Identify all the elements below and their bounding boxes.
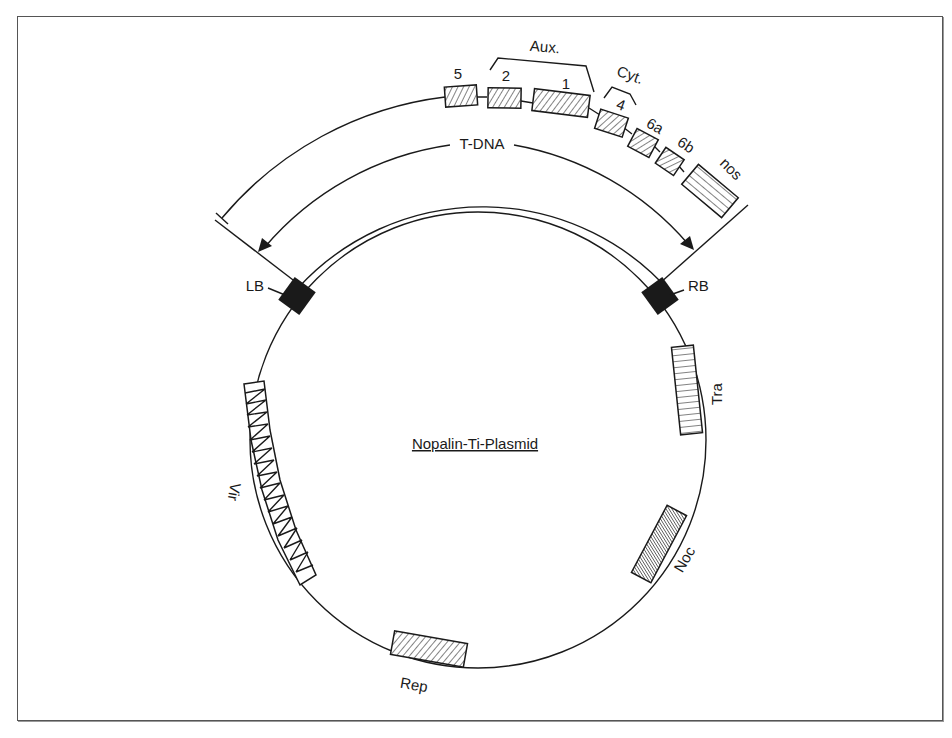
region-vir: Vir	[225, 381, 316, 585]
svg-text:Vir: Vir	[225, 482, 245, 503]
svg-text:1: 1	[562, 75, 570, 92]
svg-text:2: 2	[502, 67, 510, 84]
tdna-ring-arc	[298, 207, 672, 294]
tdna-gene-6a: 6a	[628, 114, 668, 157]
svg-text:nos: nos	[717, 154, 746, 183]
plasmid-title: Nopalin-Ti-Plasmid	[412, 435, 538, 452]
gene-arc	[222, 97, 445, 218]
tdna-gene-6b: 6b	[655, 133, 698, 176]
svg-text:Aux.: Aux.	[529, 37, 560, 57]
svg-text:5: 5	[454, 65, 462, 82]
svg-text:6b: 6b	[675, 133, 698, 156]
rb-radial-line	[660, 205, 748, 283]
tdna-gene-2: 2	[488, 67, 521, 108]
left-border-lb: LB	[246, 277, 316, 315]
tdna-gene-4: 4	[595, 95, 629, 137]
svg-text:Tra: Tra	[708, 382, 725, 405]
tdna-gene-1: 1	[532, 75, 590, 117]
right-border-rb: RB	[641, 277, 709, 315]
tdna-gene-nos: nos	[682, 154, 746, 218]
lb-radial-line	[215, 220, 297, 283]
svg-text:Rep: Rep	[399, 674, 429, 696]
svg-text:RB: RB	[688, 277, 709, 294]
svg-text:4: 4	[614, 95, 628, 114]
tdna-gene-5: 5	[444, 65, 477, 107]
ti-plasmid-diagram: T-DNA 5 2 1 4 6a 6b nos	[0, 0, 952, 738]
region-tra: Tra	[671, 345, 725, 435]
svg-text:Cyt.: Cyt.	[615, 62, 646, 87]
tdna-span-arrow: T-DNA	[258, 135, 694, 252]
tdna-label: T-DNA	[460, 135, 505, 152]
svg-text:Noc: Noc	[670, 543, 698, 575]
svg-text:LB: LB	[246, 277, 264, 294]
